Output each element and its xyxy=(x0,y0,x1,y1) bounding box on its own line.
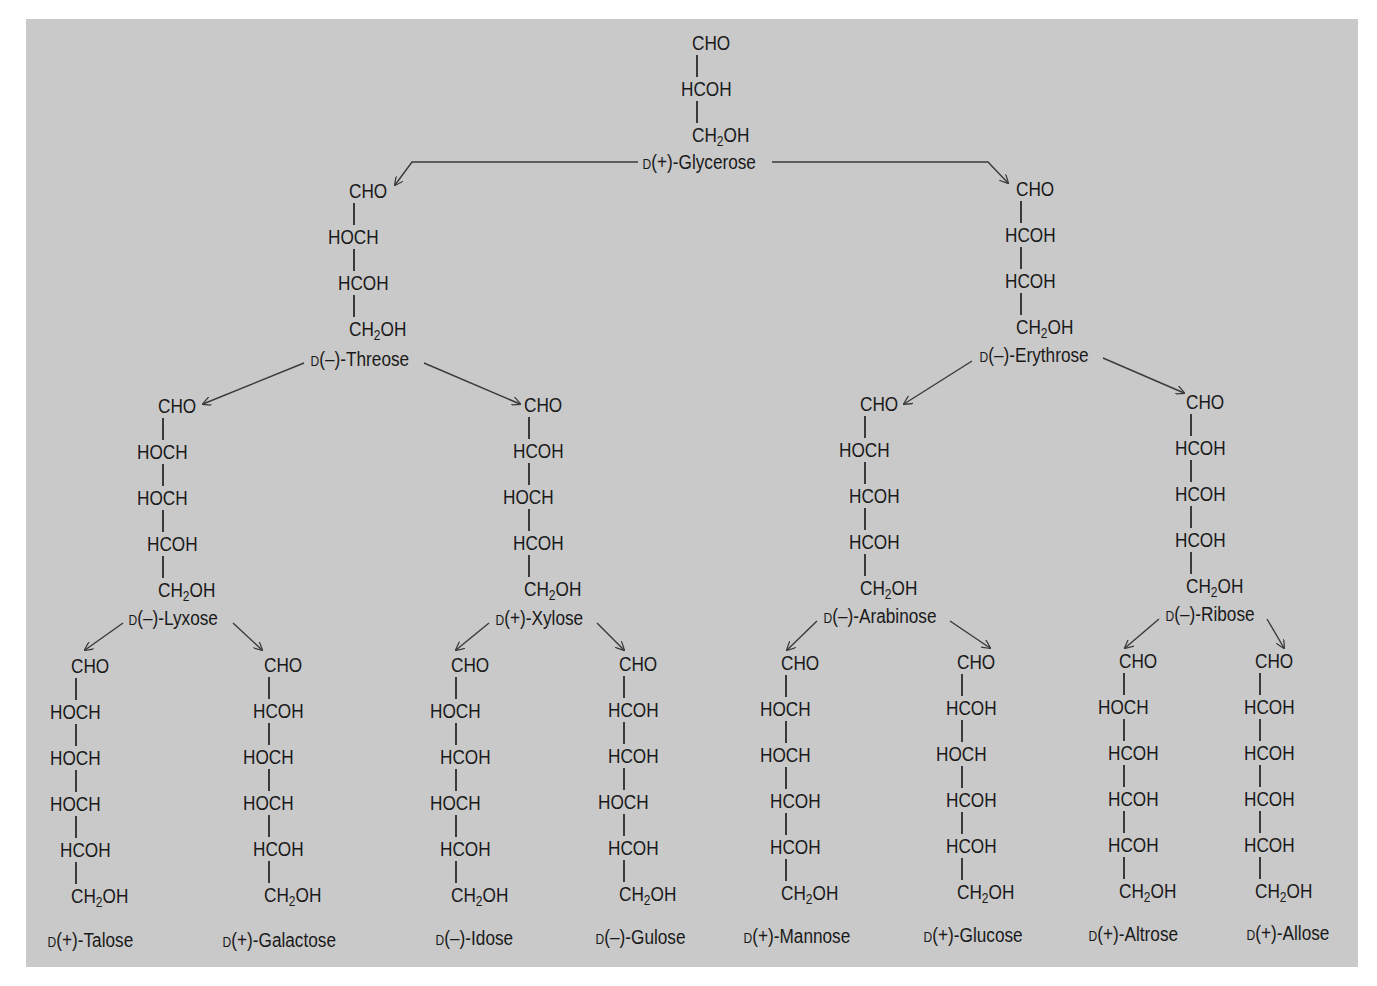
label-lyxose: D(–)-Lyxose xyxy=(126,607,220,631)
group-hcoh: HCOH xyxy=(608,745,659,767)
sugar-name: (–)-Lyxose xyxy=(137,607,218,629)
sugar-name: (–)-Ribose xyxy=(1174,603,1254,625)
bond-line xyxy=(1123,673,1124,695)
group-cho: CHO xyxy=(1255,650,1293,672)
bond-line xyxy=(1259,811,1260,833)
label-galactose: D(+)-Galactose xyxy=(220,929,339,953)
group-hcoh: HCOH xyxy=(681,78,732,100)
bond-line xyxy=(623,768,624,790)
group-hcoh: HCOH xyxy=(1175,529,1226,551)
sugar-name: (–)-Gulose xyxy=(604,926,685,948)
sugar-name: (+)-Galactose xyxy=(231,929,336,951)
group-hoch: HOCH xyxy=(243,746,294,768)
bond-line xyxy=(455,723,456,745)
group-cho: CHO xyxy=(619,653,657,675)
bond-line xyxy=(528,509,529,531)
bond-line xyxy=(75,770,76,792)
sugar-name: (+)-Xylose xyxy=(504,607,583,629)
group-hcoh: HCOH xyxy=(608,837,659,859)
group-hcoh: HCOH xyxy=(1005,270,1056,292)
label-erythrose: D(–)-Erythrose xyxy=(977,344,1091,368)
bond-line xyxy=(864,554,865,576)
config-letter: D xyxy=(1089,928,1098,944)
group-cho: CHO xyxy=(860,393,898,415)
bond-line xyxy=(623,676,624,698)
group-hoch: HOCH xyxy=(137,441,188,463)
group-hoch: HOCH xyxy=(760,744,811,766)
config-letter: D xyxy=(924,929,933,945)
bond-line xyxy=(961,812,962,834)
bond-line xyxy=(75,816,76,838)
group-cho: CHO xyxy=(349,180,387,202)
bond-line xyxy=(268,769,269,791)
bond-line xyxy=(696,55,697,77)
group-cho: CHO xyxy=(781,652,819,674)
group-hcoh: HCOH xyxy=(513,532,564,554)
bond-line xyxy=(162,556,163,578)
group-ch2oh: CH2OH xyxy=(451,884,508,906)
bond-line xyxy=(623,814,624,836)
group-ch2oh: CH2OH xyxy=(1186,575,1243,597)
config-letter: D xyxy=(129,612,138,628)
bond-line xyxy=(785,859,786,881)
bond-line xyxy=(864,508,865,530)
sugar-name: (+)-Talose xyxy=(56,929,133,951)
group-hoch: HOCH xyxy=(50,793,101,815)
bond-line xyxy=(75,724,76,746)
group-hcoh: HCOH xyxy=(946,697,997,719)
bond-line xyxy=(75,862,76,884)
label-gulose: D(–)-Gulose xyxy=(593,926,688,950)
group-hoch: HOCH xyxy=(430,700,481,722)
bond-line xyxy=(162,418,163,440)
config-letter: D xyxy=(824,610,833,626)
bond-line xyxy=(1123,811,1124,833)
config-letter: D xyxy=(596,931,605,947)
group-hcoh: HCOH xyxy=(440,838,491,860)
label-altrose: D(+)-Altrose xyxy=(1086,923,1181,947)
bond-line xyxy=(1190,506,1191,528)
group-cho: CHO xyxy=(692,32,730,54)
group-cho: CHO xyxy=(1016,178,1054,200)
bond-line xyxy=(1020,293,1021,315)
group-hoch: HOCH xyxy=(760,698,811,720)
group-hoch: HOCH xyxy=(503,486,554,508)
bond-line xyxy=(961,766,962,788)
label-arabinose: D(–)-Arabinose xyxy=(821,605,939,629)
group-hcoh: HCOH xyxy=(946,789,997,811)
config-letter: D xyxy=(1247,927,1256,943)
group-hcoh: HCOH xyxy=(770,836,821,858)
bond-line xyxy=(785,721,786,743)
group-ch2oh: CH2OH xyxy=(619,883,676,905)
group-hcoh: HCOH xyxy=(1108,742,1159,764)
bond-line xyxy=(268,723,269,745)
group-hcoh: HCOH xyxy=(253,700,304,722)
config-letter: D xyxy=(311,353,320,369)
config-letter: D xyxy=(1166,608,1175,624)
bond-line xyxy=(455,815,456,837)
config-letter: D xyxy=(980,349,989,365)
bond-line xyxy=(1123,765,1124,787)
label-ribose: D(–)-Ribose xyxy=(1163,603,1257,627)
bond-line xyxy=(268,815,269,837)
bond-line xyxy=(1123,857,1124,879)
group-cho: CHO xyxy=(524,394,562,416)
bond-line xyxy=(1259,719,1260,741)
group-cho: CHO xyxy=(1119,650,1157,672)
bond-line xyxy=(961,858,962,880)
group-hcoh: HCOH xyxy=(849,485,900,507)
group-hcoh: HCOH xyxy=(1244,696,1295,718)
group-hcoh: HCOH xyxy=(1244,834,1295,856)
config-letter: D xyxy=(223,934,232,950)
label-talose: D(+)-Talose xyxy=(45,929,136,953)
group-hcoh: HCOH xyxy=(946,835,997,857)
config-letter: D xyxy=(643,156,652,172)
group-hcoh: HCOH xyxy=(253,838,304,860)
bond-line xyxy=(353,295,354,317)
group-ch2oh: CH2OH xyxy=(860,577,917,599)
group-hoch: HOCH xyxy=(430,792,481,814)
sugar-name: (–)-Idose xyxy=(444,927,513,949)
group-hcoh: HCOH xyxy=(1108,834,1159,856)
bond-line xyxy=(1020,247,1021,269)
bond-line xyxy=(1259,673,1260,695)
label-mannose: D(+)-Mannose xyxy=(741,925,853,949)
